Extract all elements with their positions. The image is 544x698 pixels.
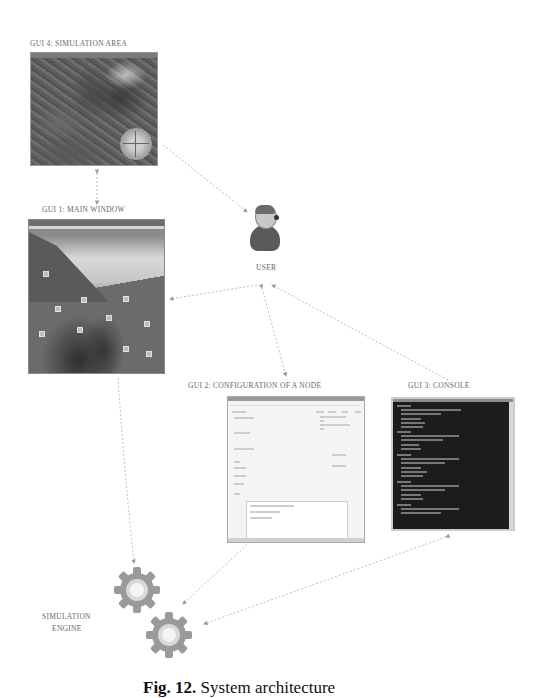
compass-icon <box>120 128 152 160</box>
gui1-label: GUI 1: MAIN WINDOW <box>42 205 125 214</box>
engine-label-line1: SIMULATION <box>42 612 91 621</box>
gui4-label: GUI 4: SIMULATION AREA <box>30 39 127 48</box>
sensor-node-icon <box>144 321 150 327</box>
sensor-node-icon <box>146 351 152 357</box>
gui3-label: GUI 3: CONSOLE <box>408 381 470 390</box>
user-label: USER <box>256 263 276 272</box>
titlebar <box>31 53 157 58</box>
figure-number: Fig. 12. <box>143 678 196 697</box>
console-screenshot <box>391 397 515 531</box>
sensor-node-icon <box>106 315 112 321</box>
sensor-node-icon <box>123 346 129 352</box>
sensor-node-icon <box>77 327 83 333</box>
arrow-user-gui2 <box>262 288 286 376</box>
gear-icon <box>144 610 194 660</box>
sensor-node-icon <box>55 306 61 312</box>
sensor-node-icon <box>39 331 45 337</box>
figure-caption: Fig. 12. System architecture <box>143 678 335 698</box>
sensor-node-icon <box>81 297 87 303</box>
arrow-user-gui1 <box>170 285 257 299</box>
simulation-area-screenshot <box>30 52 158 166</box>
engine-label-line2: ENGINE <box>52 624 82 633</box>
text-area <box>246 501 348 539</box>
scrollbar <box>509 402 513 529</box>
arrow-gui2-engine <box>183 542 250 604</box>
statusbar <box>228 538 364 542</box>
sensor-node-icon <box>123 296 129 302</box>
arrow-gui4-user <box>163 145 247 212</box>
titlebar <box>393 399 513 402</box>
gear-icon <box>112 565 162 615</box>
user-hair <box>255 205 275 214</box>
arrow-gui1-engine <box>118 378 134 563</box>
sensor-node-icon <box>43 271 49 277</box>
user-headset-icon <box>250 205 280 253</box>
figure-title: System architecture <box>201 678 336 697</box>
headset-mic <box>274 215 279 220</box>
menubar <box>29 226 164 229</box>
arrow-gui3-user <box>272 285 448 380</box>
mountain-shape <box>29 232 109 302</box>
titlebar <box>228 397 364 401</box>
node-configuration-screenshot <box>227 396 365 543</box>
gui2-label: GUI 2: CONFIGURATION OF A NODE <box>188 381 321 390</box>
main-window-screenshot <box>28 219 165 374</box>
arrow-gui3-engine <box>204 537 446 624</box>
